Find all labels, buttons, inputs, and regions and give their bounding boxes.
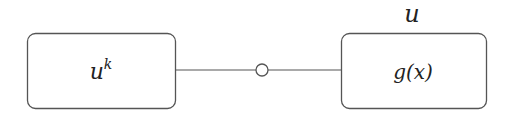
diagram-canvas: uk g(x) u — [0, 0, 512, 118]
node-right: g(x) u — [342, 0, 487, 109]
edge-left-right — [176, 64, 342, 76]
node-right-above-label: u — [404, 0, 419, 28]
node-right-label: g(x) — [393, 60, 433, 84]
node-left: uk — [28, 34, 176, 109]
open-circle-icon — [256, 64, 268, 76]
